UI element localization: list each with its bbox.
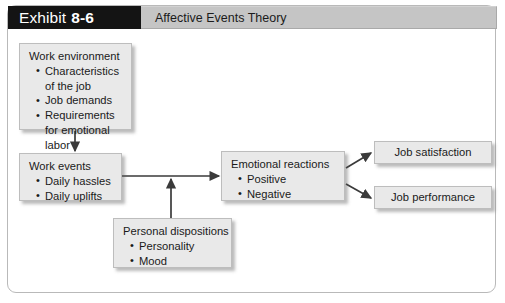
node-work-environment-bullets: Characteristics of the job Job demands R… — [29, 64, 123, 153]
bullet-item: Characteristics of the job — [45, 64, 123, 94]
bullet-item: Positive — [247, 172, 336, 187]
exhibit-header: Exhibit 8-6 Affective Events Theory — [8, 6, 497, 29]
bullet-item: Mood — [139, 254, 223, 269]
node-work-events: Work events Daily hassles Daily uplifts — [19, 153, 122, 201]
bullet-item: Job demands — [45, 93, 123, 108]
bullet-item: Daily uplifts — [45, 189, 113, 204]
exhibit-label: Exhibit — [19, 9, 66, 27]
arrow-emotional-reactions-to-job-satisfaction — [346, 153, 371, 168]
exhibit-number-block: Exhibit 8-6 — [8, 6, 141, 29]
node-personal-dispositions-title: Personal dispositions — [123, 224, 223, 239]
node-job-satisfaction-title: Job satisfaction — [394, 145, 471, 160]
exhibit-frame: Exhibit 8-6 Affective Events Theory W — [7, 5, 496, 293]
arrow-emotional-reactions-to-job-performance — [346, 184, 371, 198]
node-job-performance-title: Job performance — [391, 190, 475, 205]
diagram-canvas: Work environment Characteristics of the … — [8, 29, 495, 292]
node-emotional-reactions: Emotional reactions Positive Negative — [221, 151, 345, 201]
node-emotional-reactions-title: Emotional reactions — [231, 157, 336, 172]
node-work-environment: Work environment Characteristics of the … — [19, 43, 132, 130]
exhibit-title: Affective Events Theory — [141, 6, 497, 29]
node-work-events-bullets: Daily hassles Daily uplifts — [29, 174, 113, 204]
exhibit-number: 8-6 — [71, 9, 94, 27]
node-job-performance: Job performance — [374, 186, 492, 209]
bullet-item: Personality — [139, 239, 223, 254]
bullet-item: Daily hassles — [45, 174, 113, 189]
node-personal-dispositions-bullets: Personality Mood — [123, 239, 223, 269]
node-work-environment-title: Work environment — [29, 49, 123, 64]
node-work-events-title: Work events — [29, 159, 113, 174]
bullet-item: Negative — [247, 187, 336, 202]
node-emotional-reactions-bullets: Positive Negative — [231, 172, 336, 202]
bullet-item: Requirements for emotional labor — [45, 108, 123, 152]
node-job-satisfaction: Job satisfaction — [374, 141, 492, 164]
node-personal-dispositions: Personal dispositions Personality Mood — [113, 218, 232, 268]
